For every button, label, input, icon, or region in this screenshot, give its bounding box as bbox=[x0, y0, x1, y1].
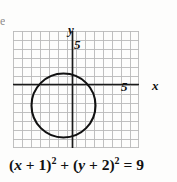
equation-result: 9 bbox=[136, 156, 144, 173]
equation-plus-1: + bbox=[22, 156, 39, 173]
circle-graph-figure: e bbox=[0, 0, 177, 182]
x-axis-tick-label-5: 5 bbox=[121, 79, 128, 95]
equation-plus-2: + bbox=[85, 156, 102, 173]
circle-equation: (x + 1)2 + (y + 2)2 = 9 bbox=[9, 155, 177, 177]
x-axis-label: x bbox=[152, 78, 159, 94]
equation-plus-middle: + bbox=[56, 156, 73, 173]
y-axis-label: y bbox=[68, 22, 74, 38]
y-axis-tick-label-5: 5 bbox=[74, 37, 81, 53]
equation-equals-sign: = bbox=[120, 156, 137, 173]
page-edge-artifact: e bbox=[0, 14, 5, 28]
equation-variable-x: x bbox=[14, 156, 22, 173]
